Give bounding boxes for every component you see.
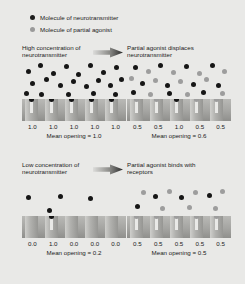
receptor-channel bbox=[150, 99, 163, 121]
legend-item-label: Molecule of neurotransmitter bbox=[40, 14, 118, 21]
molecule-neurotransmitter bbox=[108, 83, 113, 88]
panel-title: Partial agonist displaces neurotransmitt… bbox=[127, 44, 199, 59]
molecule-neurotransmitter bbox=[216, 83, 221, 88]
opening-value: 0.5 bbox=[127, 240, 148, 248]
panel-title-line1: Low concentration of bbox=[22, 161, 79, 168]
molecule-neurotransmitter bbox=[38, 63, 43, 68]
molecule-neurotransmitter bbox=[76, 72, 81, 77]
molecule-neurotransmitter bbox=[39, 92, 44, 97]
receptor-channel bbox=[170, 99, 183, 121]
receptor-membrane bbox=[22, 216, 126, 238]
panel-title-line2: neurotransmitter bbox=[22, 168, 67, 175]
mean-opening-label: Mean opening = 1.0 bbox=[22, 132, 126, 140]
receptor-body bbox=[65, 216, 78, 238]
receptor-channel bbox=[170, 216, 183, 238]
molecule-neurotransmitter bbox=[26, 195, 31, 200]
molecule-neurotransmitter bbox=[66, 92, 71, 97]
molecule-partial-agonist bbox=[220, 189, 225, 194]
receptor-channel bbox=[190, 99, 203, 121]
molecule-neurotransmitter bbox=[165, 83, 170, 88]
legend-item-label: Molecule of partial agonist bbox=[40, 26, 112, 33]
opening-value: 0.0 bbox=[22, 240, 43, 248]
molecule-neurotransmitter bbox=[140, 81, 145, 86]
molecule-neurotransmitter bbox=[26, 69, 31, 74]
legend-item-partial-agonist: Molecule of partial agonist bbox=[30, 24, 118, 34]
receptor-channel bbox=[105, 99, 118, 121]
molecule-neurotransmitter bbox=[58, 194, 63, 199]
molecule-neurotransmitter bbox=[58, 83, 63, 88]
receptor-channel bbox=[105, 216, 118, 238]
opening-value: 1.0 bbox=[64, 123, 85, 131]
molecule-partial-agonist bbox=[197, 71, 202, 76]
molecule-partial-agonist bbox=[204, 77, 209, 82]
receptor-membrane bbox=[127, 216, 231, 238]
molecule-partial-agonist bbox=[193, 190, 198, 195]
mean-opening-label: Mean opening = 0.2 bbox=[22, 249, 126, 257]
molecule-neurotransmitter bbox=[135, 204, 140, 209]
panel-title: Partial agonist binds with receptors bbox=[127, 161, 199, 176]
opening-value: 0.0 bbox=[64, 240, 85, 248]
receptor-membrane bbox=[22, 99, 126, 121]
panel-title-line1: High concentration of bbox=[22, 44, 80, 51]
molecule-neurotransmitter bbox=[88, 196, 93, 201]
panel-top-left: High concentration of neurotransmitter bbox=[22, 44, 126, 140]
panel-bottom-right: Partial agonist binds with receptors bbox=[127, 161, 231, 257]
opening-values-row: 1.0 1.0 1.0 1.0 1.0 bbox=[22, 123, 126, 131]
receptor-channel bbox=[150, 216, 163, 238]
panel-title-line2: receptors bbox=[127, 168, 153, 175]
molecule-partial-agonist bbox=[220, 91, 225, 96]
molecule-neurotransmitter bbox=[179, 195, 184, 200]
molecule-neurotransmitter bbox=[96, 78, 101, 83]
opening-values-row: 0.5 0.5 1.0 0.5 0.5 bbox=[127, 123, 231, 131]
molecule-neurotransmitter bbox=[24, 91, 29, 96]
molecule-partial-agonist bbox=[167, 189, 172, 194]
molecule-partial-agonist bbox=[185, 92, 190, 97]
opening-values-row: 0.0 1.0 0.0 0.0 0.0 bbox=[22, 240, 126, 248]
molecule-neurotransmitter bbox=[113, 92, 118, 97]
opening-value: 1.0 bbox=[43, 123, 64, 131]
molecule-partial-agonist bbox=[171, 70, 176, 75]
opening-value: 0.5 bbox=[189, 123, 210, 131]
panel-title: Low concentration of neurotransmitter bbox=[22, 161, 94, 176]
opening-value: 0.5 bbox=[148, 123, 169, 131]
receptor-channel bbox=[85, 216, 98, 238]
receptor-channel bbox=[45, 99, 58, 121]
molecule-partial-agonist bbox=[153, 78, 158, 83]
molecule-neurotransmitter bbox=[207, 193, 212, 198]
molecule-field bbox=[127, 59, 231, 99]
receptor-body bbox=[25, 216, 38, 238]
figure-canvas: Molecule of neurotransmitter Molecule of… bbox=[0, 0, 245, 284]
molecule-neurotransmitter bbox=[133, 65, 138, 70]
molecule-neurotransmitter bbox=[88, 63, 93, 68]
molecule-partial-agonist bbox=[187, 205, 192, 210]
opening-value: 0.5 bbox=[127, 123, 148, 131]
receptor-channel bbox=[190, 216, 203, 238]
molecule-neurotransmitter bbox=[119, 77, 124, 82]
molecule-neurotransmitter bbox=[64, 64, 69, 69]
molecule-neurotransmitter bbox=[167, 91, 172, 96]
opening-value: 1.0 bbox=[105, 123, 126, 131]
opening-value: 1.0 bbox=[43, 240, 64, 248]
receptor-body bbox=[105, 216, 118, 238]
mean-opening-label: Mean opening = 0.5 bbox=[127, 249, 231, 257]
molecule-neurotransmitter bbox=[71, 79, 76, 84]
molecule-neurotransmitter bbox=[210, 63, 215, 68]
opening-value: 0.0 bbox=[84, 240, 105, 248]
molecule-neurotransmitter bbox=[51, 71, 56, 76]
molecule-neurotransmitter bbox=[84, 84, 89, 89]
molecule-neurotransmitter bbox=[47, 208, 52, 213]
receptor-channel bbox=[65, 216, 78, 238]
receptor-channel bbox=[85, 99, 98, 121]
molecule-neurotransmitter bbox=[158, 63, 163, 68]
molecule-neurotransmitter bbox=[131, 90, 136, 95]
receptor-channel bbox=[25, 99, 38, 121]
molecule-neurotransmitter bbox=[91, 91, 96, 96]
receptor-channel bbox=[45, 216, 58, 238]
opening-value: 1.0 bbox=[169, 123, 190, 131]
receptor-channel bbox=[130, 216, 143, 238]
receptor-channel bbox=[210, 99, 223, 121]
molecule-neurotransmitter bbox=[44, 77, 49, 82]
panel-title: High concentration of neurotransmitter bbox=[22, 44, 94, 59]
molecule-neurotransmitter bbox=[114, 65, 119, 70]
molecule-partial-agonist bbox=[178, 79, 183, 84]
